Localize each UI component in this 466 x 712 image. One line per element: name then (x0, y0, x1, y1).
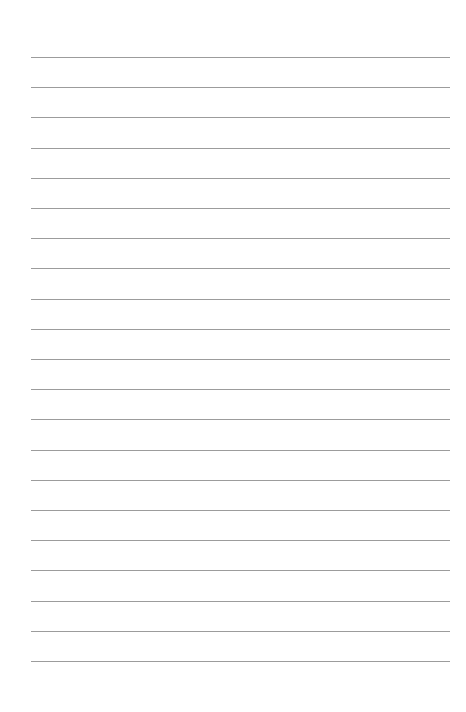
ruled-line (31, 359, 450, 360)
ruled-line (31, 450, 450, 451)
ruled-line (31, 661, 450, 662)
ruled-line (31, 87, 450, 88)
ruled-line (31, 389, 450, 390)
ruled-line (31, 299, 450, 300)
ruled-line (31, 268, 450, 269)
ruled-line (31, 480, 450, 481)
ruled-line (31, 117, 450, 118)
ruled-line (31, 329, 450, 330)
ruled-line (31, 208, 450, 209)
ruled-line (31, 631, 450, 632)
ruled-line (31, 238, 450, 239)
lined-paper-page (0, 0, 466, 712)
ruled-line (31, 540, 450, 541)
ruled-line (31, 570, 450, 571)
ruled-line (31, 601, 450, 602)
ruled-line (31, 510, 450, 511)
ruled-line (31, 57, 450, 58)
ruled-line (31, 148, 450, 149)
ruled-line (31, 178, 450, 179)
ruled-line (31, 419, 450, 420)
